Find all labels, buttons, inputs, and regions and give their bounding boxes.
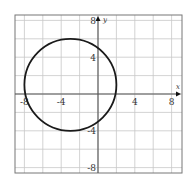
- circle-curve: [24, 39, 116, 131]
- y-tick-label: 4: [90, 53, 96, 63]
- x-tick-label: -4: [57, 97, 66, 107]
- x-axis-arrow-icon: [176, 92, 181, 97]
- y-tick-label: 8: [90, 16, 96, 26]
- x-axis-label: x: [176, 83, 180, 91]
- y-axis-arrow-icon: [96, 16, 101, 21]
- plotted-curves: [24, 39, 116, 131]
- x-tick-label: 8: [169, 97, 175, 107]
- x-tick-label: 4: [132, 97, 138, 107]
- coordinate-plane: -8-44884-4-8 x y: [0, 0, 191, 181]
- y-tick-label: -8: [87, 163, 96, 173]
